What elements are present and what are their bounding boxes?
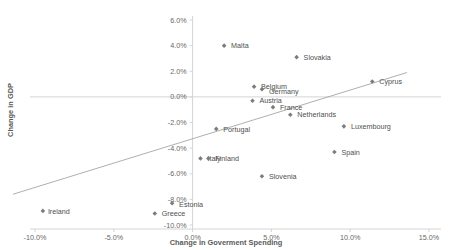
data-point-malta: Malta — [222, 41, 249, 50]
scatter-chart: 6.0%4.0%2.0%0.0%-2.0%-4.0%-6.0%-8.0%-10.… — [0, 0, 452, 250]
y-axis-title: Change in GDP — [6, 83, 15, 137]
diamond-marker — [288, 113, 293, 118]
y-tick-label: -2.0% — [168, 118, 187, 127]
diamond-marker — [260, 174, 265, 179]
diamond-marker — [222, 43, 227, 48]
diamond-marker — [250, 98, 255, 103]
y-tick-label: 0.0% — [170, 92, 187, 101]
point-label: Ireland — [48, 207, 70, 216]
point-label: Cyprus — [379, 77, 402, 86]
data-point-greece: Greece — [152, 209, 185, 218]
point-label: Netherlands — [297, 110, 336, 119]
y-tick-label: -4.0% — [168, 144, 187, 153]
diamond-marker — [332, 150, 337, 155]
trendline — [13, 73, 407, 195]
x-tick-label: -10.0% — [24, 233, 47, 242]
trendline-segment — [13, 73, 407, 195]
chart-canvas: 6.0%4.0%2.0%0.0%-2.0%-4.0%-6.0%-8.0%-10.… — [0, 0, 452, 250]
point-label: Slovakia — [304, 53, 331, 62]
point-label: Germany — [269, 87, 299, 96]
point-label: Malta — [231, 41, 249, 50]
y-tick-label: 2.0% — [170, 67, 187, 76]
point-label: Slovenia — [269, 172, 297, 181]
point-label: Luxembourg — [351, 122, 391, 131]
diamond-marker — [271, 105, 276, 110]
y-tick-label: -6.0% — [168, 169, 187, 178]
y-tick-label: 6.0% — [170, 16, 187, 25]
x-tick-label: 10.0% — [340, 233, 361, 242]
data-point-austria: Austria — [250, 96, 282, 105]
x-axis-title: Change in Goverment Spending — [170, 238, 283, 247]
y-tick-label: 4.0% — [170, 41, 187, 50]
data-point-ireland: Ireland — [41, 207, 70, 216]
point-label: Portugal — [223, 125, 250, 134]
diamond-marker — [294, 55, 299, 60]
data-point-netherlands: Netherlands — [288, 110, 336, 119]
data-point-slovenia: Slovenia — [260, 172, 297, 181]
data-point-slovakia: Slovakia — [294, 53, 330, 62]
diamond-marker — [342, 124, 347, 129]
point-label: Greece — [162, 209, 186, 218]
x-tick-label: -5.0% — [104, 233, 123, 242]
data-point-luxembourg: Luxembourg — [342, 122, 391, 131]
point-label: Estonia — [179, 200, 203, 209]
y-tick-label: -10.0% — [164, 221, 187, 230]
diamond-marker — [214, 127, 219, 132]
x-tick-label: 15.0% — [419, 233, 440, 242]
data-point-cyprus: Cyprus — [370, 77, 402, 86]
point-label: Spain — [341, 148, 359, 157]
diamond-marker — [198, 156, 203, 161]
data-point-spain: Spain — [332, 148, 360, 157]
point-label: Finland — [215, 154, 239, 163]
diamond-marker — [41, 209, 46, 214]
point-label: Austria — [259, 96, 281, 105]
data-point-portugal: Portugal — [214, 125, 250, 134]
diamond-marker — [152, 211, 157, 216]
diamond-marker — [252, 84, 257, 89]
